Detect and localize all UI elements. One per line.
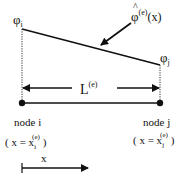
- node-j-coordinate: ( x = xj(e)): [133, 131, 175, 149]
- node-i-dot: [19, 100, 25, 106]
- interpolation-line: [22, 29, 160, 65]
- phi-hat-label: φ(e)(x): [131, 8, 161, 24]
- phi-j-label: φj: [160, 50, 170, 67]
- node-j-label: node j: [143, 116, 170, 128]
- node-i-coordinate: ( x = xi(e)): [5, 133, 47, 151]
- length-label: L(e): [80, 80, 98, 97]
- phi-hat-pointer-arrow: [101, 23, 131, 45]
- x-axis-label: x: [41, 152, 47, 164]
- phi-i-label: φi: [13, 12, 24, 29]
- node-j-dot: [157, 100, 163, 106]
- finite-element-diagram: φi φj ^ φ(e)(x) L(e) node i node j ( x =…: [0, 0, 191, 186]
- node-i-label: node i: [14, 116, 41, 128]
